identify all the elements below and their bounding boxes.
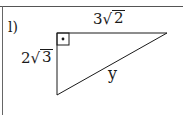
top-coefficient: 3 [93,12,103,27]
side-left-label: 2√3 [21,49,53,66]
top-radical-icon: √ [103,12,113,27]
left-radicand: 3 [40,49,53,66]
left-radical-icon: √ [31,51,41,66]
left-coefficient: 2 [21,51,31,66]
right-angle-dot-icon [62,38,65,41]
side-top-label: 3√2 [93,10,125,27]
top-radicand: 2 [112,10,125,27]
hypotenuse-label: y [108,66,117,82]
